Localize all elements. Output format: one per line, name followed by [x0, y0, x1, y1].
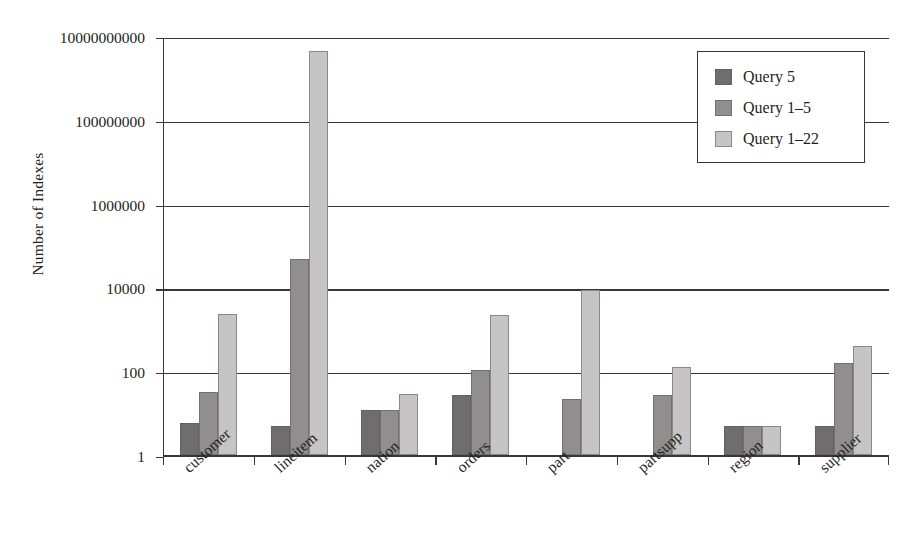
legend-label: Query 5	[743, 69, 795, 85]
bar-group	[271, 38, 328, 455]
y-tick-label: 10000	[106, 281, 145, 297]
bar	[452, 395, 471, 456]
y-axis-title: Number of Indexes	[29, 114, 47, 314]
y-tick: 100000000	[156, 122, 164, 123]
bar	[562, 399, 581, 455]
bar	[399, 394, 418, 456]
y-tick-label: 10000000000	[60, 30, 145, 46]
bar	[290, 259, 309, 456]
bar-group	[361, 38, 418, 455]
bar-group	[180, 38, 237, 455]
figure-bar-chart: Number of Indexes 1000000000010000000010…	[0, 0, 903, 556]
legend-label: Query 1–22	[743, 131, 819, 147]
y-tick-label: 1	[137, 449, 145, 465]
legend-swatch-icon	[715, 131, 732, 147]
y-axis-line	[163, 38, 164, 457]
legend-swatch-icon	[715, 100, 732, 116]
x-tick	[888, 457, 889, 465]
legend-swatch-icon	[715, 69, 732, 85]
x-tick	[163, 457, 164, 465]
x-tick	[617, 457, 618, 465]
y-tick-label: 1000000	[91, 198, 145, 214]
bar-group	[543, 38, 600, 455]
caption-remnant	[300, 0, 640, 3]
x-tick	[708, 457, 709, 465]
legend-item: Query 5	[715, 61, 864, 92]
y-tick-label: 100	[122, 365, 145, 381]
legend-item: Query 1–22	[715, 123, 864, 154]
bar	[490, 315, 509, 455]
x-tick	[254, 457, 255, 465]
legend-item: Query 1–5	[715, 92, 864, 123]
bar	[309, 51, 328, 455]
legend: Query 5Query 1–5Query 1–22	[697, 51, 865, 163]
x-tick	[345, 457, 346, 465]
y-tick: 10000000000	[156, 38, 164, 39]
x-tick	[798, 457, 799, 465]
y-tick: 100	[156, 373, 164, 374]
x-tick	[435, 457, 436, 465]
bar-group	[634, 38, 691, 455]
legend-label: Query 1–5	[743, 100, 811, 116]
y-tick: 10000	[156, 289, 164, 290]
bar-group	[452, 38, 509, 455]
y-tick-label: 100000000	[75, 114, 145, 130]
x-tick	[526, 457, 527, 465]
bar	[581, 290, 600, 456]
y-tick: 1000000	[156, 206, 164, 207]
